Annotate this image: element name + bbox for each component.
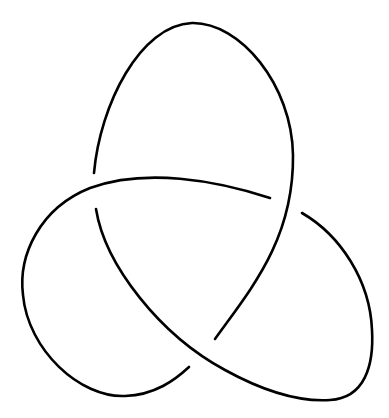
knot-strand-left-lobe [22,178,270,396]
knot-strand-right-lobe [96,209,372,400]
trefoil-knot-diagram [0,0,389,418]
